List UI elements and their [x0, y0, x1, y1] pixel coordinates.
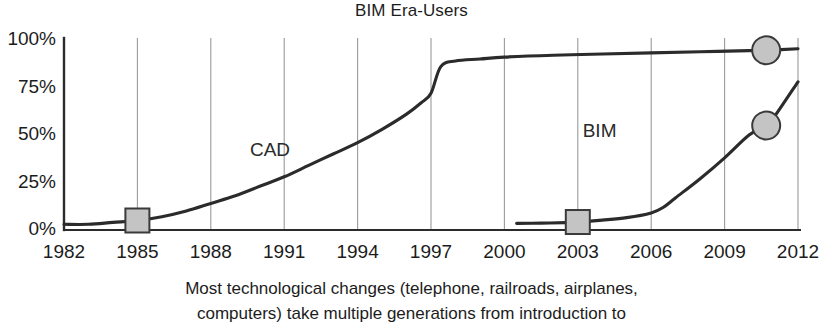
caption-line-2: computers) take multiple generations fro…	[0, 301, 823, 326]
x-tick-1988: 1988	[176, 242, 246, 261]
x-tick-2000: 2000	[469, 242, 539, 261]
series-label-cad: CAD	[250, 140, 290, 159]
x-tick-1991: 1991	[249, 242, 319, 261]
series-label-bim: BIM	[583, 121, 617, 140]
y-tick-100pct: 100%	[0, 29, 56, 48]
x-tick-1985: 1985	[102, 242, 172, 261]
curve-bim	[517, 82, 798, 224]
cad-end-marker[interactable]	[752, 36, 780, 64]
x-tick-2003: 2003	[543, 242, 613, 261]
bim-start-marker[interactable]	[566, 210, 590, 234]
axis-lines	[64, 38, 800, 230]
gridlines	[137, 38, 798, 230]
x-tick-2012: 2012	[763, 242, 823, 261]
x-tick-1982: 1982	[29, 242, 99, 261]
x-tick-1997: 1997	[396, 242, 466, 261]
x-tick-2009: 2009	[690, 242, 760, 261]
bim-end-marker[interactable]	[752, 112, 780, 140]
data-point-markers	[125, 36, 780, 234]
y-tick-75pct: 75%	[0, 77, 56, 96]
y-tick-50pct: 50%	[0, 124, 56, 143]
y-tick-0pct: 0%	[0, 219, 56, 238]
y-tick-25pct: 25%	[0, 172, 56, 191]
x-tick-1994: 1994	[323, 242, 393, 261]
cad-start-marker[interactable]	[125, 209, 149, 233]
figure-caption: Most technological changes (telephone, r…	[0, 276, 823, 326]
x-tick-2006: 2006	[616, 242, 686, 261]
caption-line-1: Most technological changes (telephone, r…	[0, 276, 823, 301]
chart-figure: BIM Era-Users 0%25%50%75%100% 1982198519…	[0, 0, 823, 330]
